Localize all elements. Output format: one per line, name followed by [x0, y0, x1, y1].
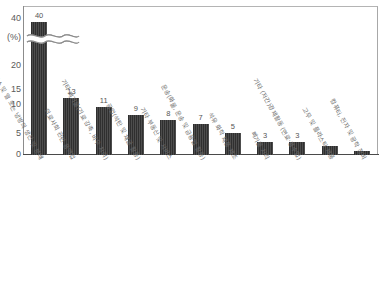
x-axis-label-text: 컴퓨터, 전자 및 광학 장비: [329, 98, 368, 161]
x-axis-label-text: 석유 화학 제품 제조: [207, 111, 239, 161]
x-axis-category-labels: 전기, 가스 및 열 또는 냉방의 생산 및 분배의료사회 관련 용역업기타 폐…: [0, 0, 389, 294]
x-axis-label-text: 고무 및 플라스틱 제품: [301, 106, 336, 161]
x-axis-label-text: 전기, 가스 및 열 또는 냉방의 생산 및 분배: [0, 60, 45, 161]
x-axis-label-text: 기타 부동산 및 서비스: [140, 106, 175, 161]
bar-chart: 40(%)20151050 401311987533 전기, 가스 및 열 또는…: [0, 0, 389, 294]
x-axis-label-text: 광업(석탄 및 채굴 활동): [105, 102, 142, 161]
x-axis-label-text: 폐기물 처리: [250, 130, 271, 161]
x-axis-label-text: 의료사회 관련 용역업: [44, 108, 78, 161]
